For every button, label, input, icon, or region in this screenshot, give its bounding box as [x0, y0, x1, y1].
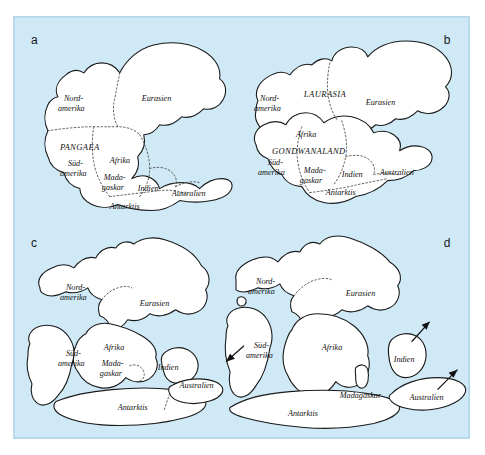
label-australien-c: Australien: [179, 380, 214, 389]
label-antarktis-b: Antarktis: [324, 188, 355, 197]
label-nordamerika-line2-b: amerika: [253, 104, 280, 113]
label-afrika-b: Afrika: [294, 130, 315, 139]
label-eurasien-b: Eurasien: [364, 98, 395, 107]
label-madagaskar-line2-b: gaskar: [299, 176, 322, 185]
label-indien-c: Indien: [157, 362, 179, 371]
panel-c-map: Nord- amerika Eurasien Afrika Süd- ameri…: [14, 228, 242, 439]
label-nordamerika-line2-d: amerika: [247, 286, 274, 295]
label-suedamerika-line1-d: Süd-: [253, 340, 268, 349]
island-d: [236, 296, 245, 305]
label-madagaskar-line2: gaskar: [102, 183, 125, 192]
label-eurasien: Eurasien: [141, 94, 172, 103]
label-madagaskar-line1: Mada-: [103, 173, 126, 182]
panel-b-map: Nord- amerika LAURASIA Eurasien Afrika G…: [242, 17, 470, 228]
label-afrika: Afrika: [109, 156, 130, 165]
label-indien-b: Indien: [340, 170, 362, 179]
label-afrika-d: Afrika: [320, 342, 341, 351]
label-australien-b: Australien: [378, 168, 413, 177]
label-australien-d: Australien: [408, 392, 443, 401]
panel-c: c Nord- amerika Eurasien Afrika Süd- am: [14, 228, 242, 439]
label-suedamerika-line1-c: Süd-: [66, 348, 81, 357]
panel-d: d: [242, 228, 470, 439]
label-madagaskar-line1-b: Mada-: [302, 166, 325, 175]
label-antarktis-c: Antarktis: [117, 402, 148, 411]
label-madagaskar-d: Madagaskar: [338, 390, 381, 399]
label-antarktis-d: Antarktis: [286, 408, 317, 417]
label-nordamerika-line2: amerika: [58, 104, 85, 113]
label-eurasien-c: Eurasien: [139, 298, 170, 307]
label-afrika-c: Afrika: [103, 342, 124, 351]
label-suedamerika-line2-c: amerika: [58, 358, 85, 367]
figure-continental-drift: a Nord- amerika Eurasien PANGAEA Süd- am…: [13, 16, 470, 439]
label-laurasia: LAURASIA: [302, 89, 346, 99]
label-antarktis: Antarktis: [109, 202, 140, 211]
panel-a-map: Nord- amerika Eurasien PANGAEA Süd- amer…: [14, 17, 242, 228]
madagascar-landmass-d: [355, 364, 368, 387]
label-nordamerika-line2-c: amerika: [60, 292, 87, 301]
panel-b: b Nord- amerika LAURASIA Eurasien Afrika…: [242, 17, 470, 228]
label-suedamerika-line2-b: amerika: [257, 168, 284, 177]
label-madagaskar-line1-c: Mada-: [101, 358, 124, 367]
label-madagaskar-line2-c: gaskar: [100, 368, 123, 377]
africa-landmass-c: [73, 323, 157, 388]
laurasia-landmass-c: [39, 237, 209, 329]
label-suedamerika-line2-d: amerika: [245, 350, 272, 359]
panel-a: a Nord- amerika Eurasien PANGAEA Süd- am…: [14, 17, 242, 228]
label-nordamerika-line1-c: Nord-: [65, 282, 86, 291]
label-suedamerika-line2: amerika: [60, 169, 87, 178]
label-indien-d: Indien: [392, 354, 414, 363]
label-indien: Indien: [137, 184, 159, 193]
label-pangaea: PANGAEA: [59, 142, 100, 152]
label-nordamerika-line1: Nord-: [63, 94, 84, 103]
label-gondwanaland: GONDWANALAND: [271, 146, 345, 156]
label-australien: Australien: [171, 189, 206, 198]
label-suedamerika-line1-b: Süd-: [267, 158, 282, 167]
panel-d-map: Nord- amerika Eurasien Afrika Süd- ameri…: [242, 228, 470, 439]
label-nordamerika-line1-d: Nord-: [254, 276, 275, 285]
label-nordamerika-line1-b: Nord-: [258, 94, 279, 103]
label-eurasien-d: Eurasien: [344, 288, 375, 297]
label-suedamerika-line1: Süd-: [68, 159, 83, 168]
